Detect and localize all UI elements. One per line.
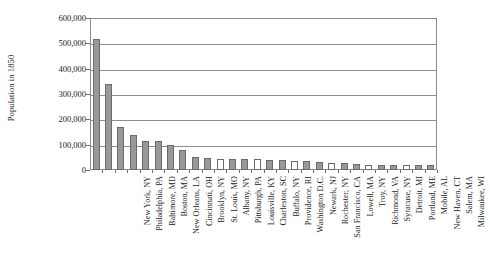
x-axis-tick-mark <box>264 170 265 173</box>
bar <box>117 127 124 170</box>
x-axis-tick-mark <box>152 170 153 173</box>
y-axis-tick-mark <box>86 145 90 146</box>
bar <box>241 159 248 170</box>
bar <box>179 150 186 170</box>
y-axis-tick-label: 400,000 <box>38 64 86 73</box>
x-axis-tick-mark <box>425 170 426 173</box>
bar <box>204 158 211 170</box>
x-axis-tick-mark <box>127 170 128 173</box>
y-axis-title-label: Population in 1850 <box>6 54 16 121</box>
bar <box>142 141 149 170</box>
x-axis-tick-mark <box>177 170 178 173</box>
x-axis-tick-mark <box>325 170 326 173</box>
y-axis-tick-label: 300,000 <box>38 90 86 99</box>
x-axis-category-labels: New York, NYPhiladelphia, PABaltimore, M… <box>90 174 437 270</box>
bar <box>266 160 273 170</box>
bar <box>192 157 199 170</box>
bar <box>155 141 162 170</box>
bar <box>105 84 112 170</box>
x-axis-tick-mark <box>251 170 252 173</box>
x-axis-tick-mark <box>350 170 351 173</box>
bar <box>341 163 348 170</box>
x-axis-tick-mark <box>437 170 438 173</box>
bar <box>167 145 174 170</box>
y-axis-tick-label: 100,000 <box>38 140 86 149</box>
bars-layer <box>90 18 437 170</box>
y-axis-tick-label: 0 <box>38 166 86 175</box>
y-axis-title: Population in 1850 <box>0 0 22 175</box>
x-axis-tick-mark <box>214 170 215 173</box>
y-axis-tick-labels: 0100,000200,000300,000400,000500,000600,… <box>34 18 86 170</box>
x-axis-tick-mark <box>288 170 289 173</box>
y-axis-tick-label: 200,000 <box>38 115 86 124</box>
x-axis-tick-mark <box>239 170 240 173</box>
bar <box>328 163 335 170</box>
bar <box>254 159 261 170</box>
y-axis-tick-mark <box>86 69 90 70</box>
bar <box>217 159 224 170</box>
x-axis-tick-mark <box>375 170 376 173</box>
x-axis-tick-mark <box>115 170 116 173</box>
y-axis-tick-mark <box>86 94 90 95</box>
bar <box>93 39 100 170</box>
bar <box>279 160 286 170</box>
x-axis-tick-mark <box>412 170 413 173</box>
x-axis-tick-mark <box>363 170 364 173</box>
bar <box>229 159 236 170</box>
y-axis-tick-label: 600,000 <box>38 14 86 23</box>
x-axis-tick-mark <box>164 170 165 173</box>
x-axis-tick-mark <box>338 170 339 173</box>
bar <box>291 161 298 170</box>
y-axis-tick-label: 500,000 <box>38 39 86 48</box>
bar <box>316 162 323 170</box>
x-axis-tick-mark <box>102 170 103 173</box>
y-axis-tick-mark <box>86 18 90 19</box>
x-axis-tick-mark <box>226 170 227 173</box>
x-axis-tick-mark <box>202 170 203 173</box>
x-axis-tick-mark <box>313 170 314 173</box>
x-axis-tick-mark <box>400 170 401 173</box>
x-axis-tick-mark <box>189 170 190 173</box>
y-axis-tick-mark <box>86 170 90 171</box>
x-axis-tick-mark <box>387 170 388 173</box>
x-axis-tick-mark <box>276 170 277 173</box>
y-axis-tick-mark <box>86 119 90 120</box>
bar <box>130 135 137 170</box>
x-axis-category-label: Milwaukee, WI <box>434 174 490 270</box>
x-axis-tick-mark <box>140 170 141 173</box>
x-axis-tick-mark <box>301 170 302 173</box>
y-axis-tick-mark <box>86 43 90 44</box>
bar <box>303 161 310 170</box>
